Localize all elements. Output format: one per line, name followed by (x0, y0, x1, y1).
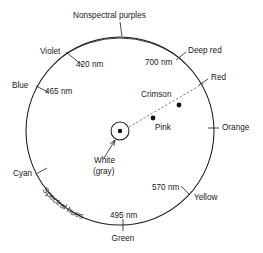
nonspectral-purples-leader (120, 22, 122, 36)
white-label-arrowhead (110, 140, 115, 146)
label-violet: Violet (40, 47, 61, 56)
label-cyan: Cyan (13, 169, 33, 178)
label-blue-nm: 465 nm (45, 87, 72, 96)
label-violet-nm: 420 nm (76, 60, 103, 69)
nonspectral-purples-arc (62, 38, 178, 57)
label-nonspectral-purples: Nonspectral purples (73, 11, 146, 20)
label-spectral-hues: Spectral hues (41, 186, 85, 221)
crimson-point (177, 103, 182, 108)
cyan-tick (36, 168, 47, 174)
label-red: Red (211, 73, 226, 82)
label-pink: Pink (155, 123, 172, 132)
label-crimson: Crimson (141, 90, 172, 99)
label-white-line2: (gray) (93, 167, 115, 176)
label-deep-red: Deep red (188, 46, 222, 55)
white-center-dot (118, 129, 122, 133)
color-wheel-figure: Nonspectral purples Violet 420 nm Blue 4… (0, 0, 263, 253)
pink-point (151, 116, 156, 121)
label-yellow: Yellow (194, 193, 217, 202)
label-green-nm: 495 nm (110, 211, 137, 220)
color-wheel-diagram: Nonspectral purples Violet 420 nm Blue 4… (0, 0, 263, 253)
yellow-tick (181, 186, 190, 195)
label-blue: Blue (12, 81, 29, 90)
label-orange: Orange (222, 123, 250, 132)
label-yellow-nm: 570 nm (152, 183, 179, 192)
label-white-line1: White (94, 156, 115, 165)
label-deep-red-nm: 700 nm (145, 58, 172, 67)
label-green: Green (112, 234, 135, 243)
